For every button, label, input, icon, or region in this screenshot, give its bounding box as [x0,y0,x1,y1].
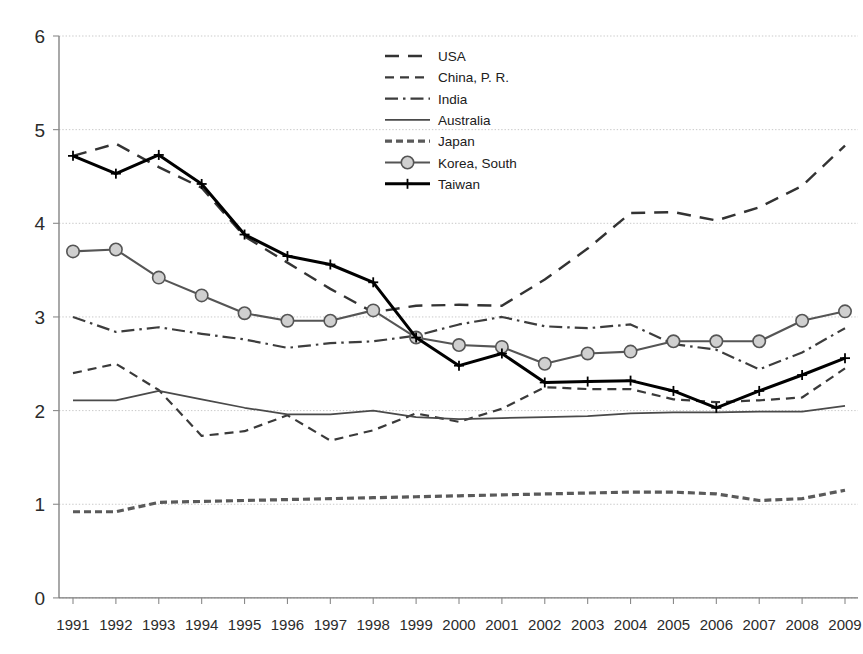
y-tick-label: 6 [34,26,45,47]
data-point-marker [583,377,593,387]
x-tick-label: 1998 [357,616,390,633]
data-point-marker [796,314,808,326]
legend-item-japan[interactable]: Japan [385,134,475,149]
data-point-marker [111,169,121,179]
x-tick-label: 2006 [700,616,733,633]
data-point-marker [711,403,721,413]
legend-item-china-p-r[interactable]: China, P. R. [385,70,509,85]
data-point-marker [110,243,122,255]
x-tick-label: 1996 [271,616,304,633]
data-point-marker [839,305,851,317]
legend-label: India [438,92,468,107]
legend-marker-circle-icon [401,156,413,168]
line-chart: 0123456 19911992199319941995199619971998… [0,0,863,654]
x-tick-label: 1991 [56,616,89,633]
legend-label: USA [438,49,466,64]
y-tick-label: 5 [34,120,45,141]
x-tick-label: 2000 [442,616,475,633]
data-point-marker [710,335,722,347]
x-tick-label: 2007 [743,616,776,633]
x-tick-label: 1992 [99,616,132,633]
legend-item-usa[interactable]: USA [385,49,466,64]
series-korea-south [67,243,851,370]
data-point-marker [626,376,636,386]
x-tick-label: 1995 [228,616,261,633]
legend-label: Japan [438,134,475,149]
legend-marker-plus-icon [403,179,413,189]
x-tick-label: 1999 [399,616,432,633]
x-tick-label: 1994 [185,616,218,633]
data-point-marker [367,304,379,316]
x-tick-label: 1997 [314,616,347,633]
legend-label: Australia [438,113,491,128]
legend-item-india[interactable]: India [385,92,468,107]
data-point-marker [453,339,465,351]
legend-label: Korea, South [438,156,517,171]
y-tick-label: 0 [34,588,45,609]
legend-label: Taiwan [438,177,480,192]
series-australia [73,391,845,419]
data-point-marker [68,151,78,161]
data-point-marker [668,386,678,396]
y-tick-label: 3 [34,307,45,328]
legend-item-taiwan[interactable]: Taiwan [385,177,480,192]
x-tick-labels-group: 1991199219931994199519961997199819992000… [56,616,861,633]
series-line [73,391,845,419]
data-point-marker [195,289,207,301]
data-point-marker [624,345,636,357]
x-tick-label: 2008 [785,616,818,633]
data-point-marker [581,347,593,359]
y-tick-label: 4 [34,213,45,234]
data-point-marker [754,386,764,396]
data-point-marker [153,271,165,283]
legend: USAChina, P. R.IndiaAustraliaJapanKorea,… [385,49,517,192]
data-point-marker [325,260,335,270]
x-tick-label: 2003 [571,616,604,633]
data-point-marker [281,314,293,326]
x-tick-label: 2005 [657,616,690,633]
data-point-marker [667,335,679,347]
series-group [67,144,851,512]
data-point-marker [282,251,292,261]
data-point-marker [539,358,551,370]
y-tick-labels-group: 0123456 [34,26,45,609]
data-point-marker [797,370,807,380]
data-point-marker [238,307,250,319]
series-line [73,490,845,512]
x-tick-label: 2001 [485,616,518,633]
x-tick-label: 1993 [142,616,175,633]
series-japan [73,490,845,512]
data-point-marker [840,353,850,363]
y-tick-label: 2 [34,401,45,422]
data-point-marker [67,245,79,257]
y-tick-label: 1 [34,494,45,515]
data-point-marker [324,314,336,326]
legend-label: China, P. R. [438,70,509,85]
legend-item-korea-south[interactable]: Korea, South [385,156,517,171]
data-point-marker [753,335,765,347]
x-tick-label: 2002 [528,616,561,633]
legend-item-australia[interactable]: Australia [385,113,491,128]
chart-container: 0123456 19911992199319941995199619971998… [0,0,863,654]
x-tick-label: 2009 [828,616,861,633]
x-tick-label: 2004 [614,616,647,633]
